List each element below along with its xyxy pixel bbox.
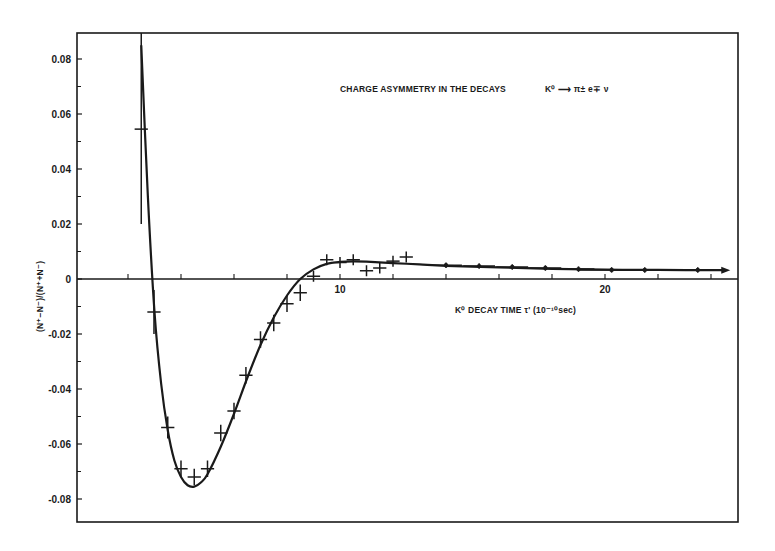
data-point xyxy=(360,265,373,276)
data-point xyxy=(188,469,201,486)
y-tick-label: 0.06 xyxy=(52,109,72,120)
data-point xyxy=(563,266,595,272)
fit-line xyxy=(141,45,724,487)
point-marker xyxy=(444,263,448,267)
y-tick-label: 0.02 xyxy=(52,219,72,230)
point-marker xyxy=(643,268,647,272)
data-point xyxy=(147,290,160,334)
data-point xyxy=(386,256,399,267)
data-point xyxy=(174,461,187,478)
data-point xyxy=(333,257,346,268)
x-axis-label: K⁰ DECAY TIME τ' (10⁻¹⁰sec) xyxy=(455,305,576,315)
data-point xyxy=(227,403,240,420)
data-point xyxy=(214,425,227,442)
y-axis-label: (N⁺−N⁻)/(N⁺+N⁻) xyxy=(35,261,45,332)
data-point xyxy=(682,267,714,273)
plot-frame xyxy=(77,33,738,522)
data-point xyxy=(612,267,678,273)
data-point xyxy=(280,296,293,313)
y-tick-label: -0.02 xyxy=(48,329,71,340)
y-tick-label: 0.04 xyxy=(52,164,72,175)
data-points xyxy=(135,33,714,485)
y-tick-label: -0.06 xyxy=(48,439,71,450)
point-marker xyxy=(543,266,547,270)
point-marker xyxy=(696,268,700,272)
chart-title-reaction: K⁰ ⟶ π± e∓ ν xyxy=(545,84,609,94)
charge-asymmetry-chart: 0.080.060.040.020-0.02-0.04-0.06-0.08 10… xyxy=(0,0,775,551)
x-axis-ticks: 1020 xyxy=(128,274,711,295)
data-point xyxy=(161,417,174,439)
data-point xyxy=(373,263,386,274)
y-tick-label: 0 xyxy=(65,274,71,285)
data-point xyxy=(135,33,148,224)
y-tick-label: -0.04 xyxy=(48,384,71,395)
y-tick-label: -0.08 xyxy=(48,494,71,505)
x-tick-label: 10 xyxy=(334,284,346,295)
chart-title: CHARGE ASYMMETRY IN THE DECAYS xyxy=(340,84,506,94)
plot-border xyxy=(77,33,738,522)
y-tick-label: 0.08 xyxy=(52,54,72,65)
point-marker xyxy=(477,264,481,268)
x-tick-label: 20 xyxy=(599,284,611,295)
point-marker xyxy=(510,265,514,269)
fitted-curve xyxy=(141,45,730,487)
data-point xyxy=(347,254,360,265)
data-point xyxy=(294,285,307,302)
data-point xyxy=(400,252,413,263)
arrow-head-icon xyxy=(721,267,730,274)
